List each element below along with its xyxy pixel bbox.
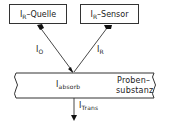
incident-intensity-label: IO [36, 45, 44, 54]
absorbed-intensity-label: Iabsorb [56, 80, 80, 89]
ir-sensor-label: IR–Sensor [81, 10, 138, 19]
sample-label-line1: Proben– [117, 76, 150, 85]
incident-emitter-icon [37, 24, 44, 30]
transmitted-intensity-label: ITrans [79, 101, 98, 110]
sample-label-line2: substanz [116, 86, 153, 95]
ir-source-label: IR–Quelle [10, 10, 66, 19]
atr-diagram: IR–Quelle IR–Sensor IO IR Iabsorb Proben… [0, 0, 169, 124]
sensor-receiver-icon [104, 25, 112, 29]
transmitted-arrowhead-icon [71, 115, 77, 121]
incident-arrowhead-icon [68, 67, 73, 73]
reflected-intensity-label: IR [97, 45, 104, 54]
ir-source-box: IR–Quelle [9, 4, 67, 24]
ir-sensor-box: IR–Sensor [80, 4, 139, 24]
incident-ray [39, 26, 73, 72]
